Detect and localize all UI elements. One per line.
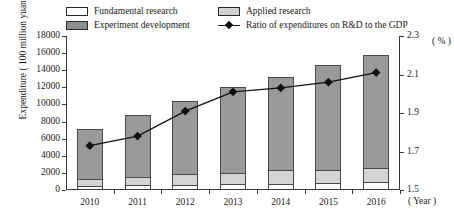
y-axis-left-tick-label: 14000: [14, 65, 60, 75]
y-axis-right-tick: [400, 152, 404, 153]
x-axis-tick-label: 2015: [306, 198, 350, 208]
y-axis-left-tick: [62, 70, 66, 71]
y-axis-left-tick-label: 12000: [14, 82, 60, 92]
bar-segment-applied: [125, 177, 151, 186]
y-axis-left-tick: [62, 87, 66, 88]
x-axis-tick: [161, 190, 162, 194]
y-axis-right-tick: [400, 75, 404, 76]
bar-segment-fundamental: [220, 184, 246, 189]
chart-legend: Fundamental research Experiment developm…: [66, 4, 396, 34]
y-axis-left-tick: [62, 122, 66, 123]
axis-left: [66, 36, 67, 190]
legend-item-ratio-line: Ratio of expenditures on R&D to the GDP: [218, 19, 408, 32]
axis-bottom: [66, 189, 400, 190]
x-axis-tick-label: 2014: [259, 198, 303, 208]
stacked-bar: [315, 65, 341, 189]
y-axis-right-tick-label: 1.7: [407, 147, 437, 157]
y-axis-right-tick: [400, 113, 404, 114]
x-axis-tick: [114, 190, 115, 194]
bar-segment-fundamental: [77, 186, 103, 189]
bar-segment-applied: [220, 173, 246, 185]
bar-segment-applied: [172, 174, 198, 185]
y-axis-left-tick: [62, 156, 66, 157]
legend-label-experiment: Experiment development: [94, 21, 190, 31]
stacked-bar: [268, 77, 294, 189]
bar-segment-fundamental: [172, 185, 198, 189]
bar-segment-experiment: [172, 101, 198, 174]
y-axis-right-tick-label: 2.1: [407, 70, 437, 80]
x-axis-tick-label: 2016: [354, 198, 398, 208]
stacked-bar: [172, 101, 198, 189]
y-axis-left-tick: [62, 104, 66, 105]
bar-segment-fundamental: [315, 183, 341, 189]
bar-segment-experiment: [77, 129, 103, 179]
bar-segment-applied: [363, 168, 389, 182]
rd-expenditure-chart: Fundamental research Experiment developm…: [0, 0, 454, 222]
x-axis-tick: [257, 190, 258, 194]
bar-segment-applied: [77, 179, 103, 187]
bar-segment-applied: [315, 170, 341, 183]
legend-item-fundamental-research: Fundamental research: [66, 5, 178, 18]
y-axis-right-tick-label: 2.3: [407, 31, 437, 41]
y-axis-left-tick: [62, 190, 66, 191]
bar-segment-experiment: [220, 87, 246, 173]
y-axis-right-tick-label: 1.9: [407, 108, 437, 118]
y-axis-left-tick-label: 2000: [14, 168, 60, 178]
stacked-bar: [363, 55, 389, 189]
bar-segment-fundamental: [268, 184, 294, 189]
y-axis-left-tick: [62, 53, 66, 54]
legend-item-experiment-development: Experiment development: [66, 19, 190, 32]
y-axis-right-tick-label: 1.5: [407, 185, 437, 195]
bar-segment-experiment: [268, 77, 294, 170]
bar-segment-experiment: [315, 65, 341, 170]
x-axis-tick: [352, 190, 353, 194]
legend-label-ratio: Ratio of expenditures on R&D to the GDP: [246, 21, 408, 31]
y-axis-left-tick-label: 4000: [14, 151, 60, 161]
bar-segment-experiment: [363, 55, 389, 168]
legend-swatch-experiment-icon: [66, 21, 88, 30]
x-axis-tick: [400, 190, 401, 194]
y-axis-left-tick-label: 8000: [14, 117, 60, 127]
x-axis-tick-label: 2010: [68, 198, 112, 208]
plot-area: 0200040006000800010000120001400016000180…: [66, 36, 400, 190]
y-axis-left-tick: [62, 36, 66, 37]
x-axis-tick: [305, 190, 306, 194]
x-axis-tick-label: 2013: [211, 198, 255, 208]
legend-label-applied: Applied research: [246, 7, 311, 17]
y-axis-left-tick-label: 16000: [14, 48, 60, 58]
stacked-bar: [125, 115, 151, 189]
x-axis-tick: [209, 190, 210, 194]
bar-segment-fundamental: [363, 182, 389, 189]
bar-segment-fundamental: [125, 185, 151, 189]
y-axis-left-tick-label: 18000: [14, 31, 60, 41]
x-axis-title: ( Year ): [408, 196, 436, 206]
stacked-bar: [77, 129, 103, 189]
y-axis-left-tick: [62, 173, 66, 174]
bar-segment-applied: [268, 170, 294, 183]
legend-label-fundamental: Fundamental research: [94, 7, 178, 17]
x-axis-tick-label: 2012: [163, 198, 207, 208]
legend-line-marker-icon: [218, 21, 240, 30]
bar-segment-experiment: [125, 115, 151, 177]
legend-item-applied-research: Applied research: [218, 5, 311, 18]
x-axis-tick-label: 2011: [116, 198, 160, 208]
y-axis-left-tick-label: 6000: [14, 134, 60, 144]
y-axis-left-tick-label: 10000: [14, 99, 60, 109]
legend-swatch-applied-icon: [218, 7, 240, 16]
y-axis-left-tick-label: 0: [14, 185, 60, 195]
y-axis-right-tick: [400, 36, 404, 37]
legend-swatch-fundamental-icon: [66, 7, 88, 16]
y-axis-left-tick: [62, 139, 66, 140]
stacked-bar: [220, 87, 246, 189]
